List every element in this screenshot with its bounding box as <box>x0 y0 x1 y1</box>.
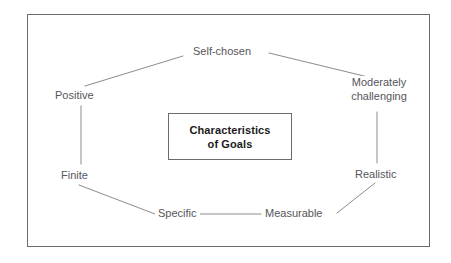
connector-positive-self-chosen <box>85 56 183 86</box>
node-moderately-challenging: Moderately challenging <box>343 76 415 103</box>
node-moderately-challenging-line2: challenging <box>343 90 415 104</box>
node-measurable: Measurable <box>262 207 325 220</box>
node-specific: Specific <box>155 207 200 220</box>
node-positive: Positive <box>52 89 97 102</box>
center-box-line1: Characteristics <box>190 123 271 137</box>
connector-realistic-measurable <box>337 183 375 213</box>
connector-self-chosen-moderately <box>269 53 368 77</box>
node-realistic: Realistic <box>352 168 400 181</box>
node-finite: Finite <box>58 169 91 182</box>
center-box-line2: of Goals <box>208 137 253 151</box>
node-self-chosen: Self-chosen <box>190 45 254 58</box>
connector-specific-finite <box>79 185 155 214</box>
center-box: Characteristics of Goals <box>168 113 292 160</box>
node-moderately-challenging-line1: Moderately <box>343 76 415 90</box>
goal-characteristics-diagram: Self-chosen Moderately challenging Reali… <box>0 0 451 263</box>
